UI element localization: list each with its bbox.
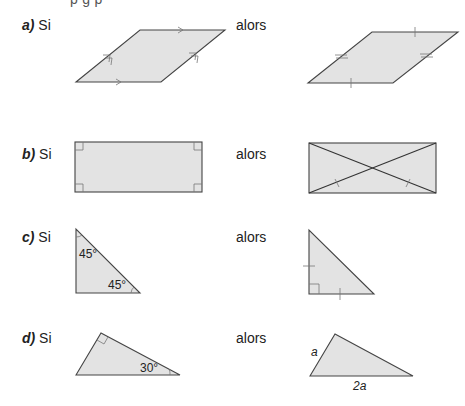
parallelogram-hypothesis [76,27,225,85]
parallelogram-conclusion [308,27,458,88]
side-label-2a: 2a [352,379,367,393]
rectangle-hypothesis [75,142,202,192]
figures-canvas: 45° 45° 30° a 2a [0,0,465,406]
triangle-isosceles-conclusion [303,230,374,300]
rectangle-conclusion [309,143,436,193]
side-label-a: a [311,345,318,359]
angle-label-45-top: 45° [79,247,97,261]
triangle-45-hypothesis: 45° 45° [76,229,140,293]
triangle-30-hypothesis: 30° [76,333,180,375]
angle-label-45-bottom: 45° [108,278,126,292]
angle-label-30: 30° [140,361,158,375]
triangle-sides-conclusion: a 2a [310,334,413,393]
